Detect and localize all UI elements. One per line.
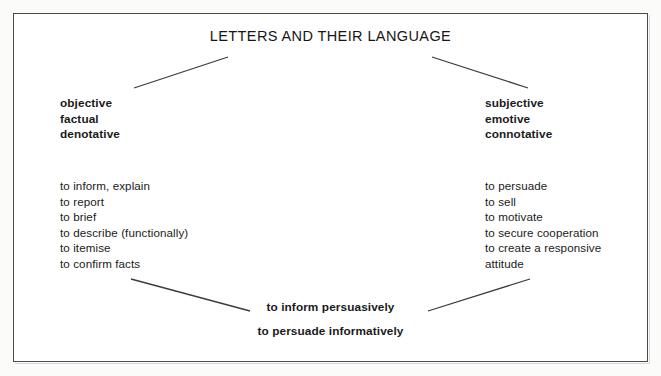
right-function-5: to create a responsive	[485, 240, 601, 256]
right-function-3: to motivate	[485, 209, 601, 225]
left-branch-functions: to inform, explain to report to brief to…	[60, 178, 188, 272]
left-function-6: to confirm facts	[60, 256, 188, 272]
left-trait-2: factual	[60, 112, 120, 128]
right-trait-2: emotive	[485, 112, 552, 128]
diagram-title: LETTERS AND THEIR LANGUAGE	[0, 28, 661, 44]
right-function-4: to secure cooperation	[485, 225, 601, 241]
right-branch-traits: subjective emotive connotative	[485, 96, 552, 143]
right-function-6: attitude	[485, 256, 601, 272]
right-trait-1: subjective	[485, 96, 552, 112]
left-function-5: to itemise	[60, 240, 188, 256]
left-function-2: to report	[60, 194, 188, 210]
right-function-1: to persuade	[485, 178, 601, 194]
left-branch-traits: objective factual denotative	[60, 96, 120, 143]
right-trait-3: connotative	[485, 127, 552, 143]
left-trait-3: denotative	[60, 127, 120, 143]
right-branch-functions: to persuade to sell to motivate to secur…	[485, 178, 601, 272]
left-function-4: to describe (functionally)	[60, 225, 188, 241]
left-function-3: to brief	[60, 209, 188, 225]
synthesis-line-1: to inform persuasively	[0, 300, 661, 314]
left-function-1: to inform, explain	[60, 178, 188, 194]
left-trait-1: objective	[60, 96, 120, 112]
right-function-2: to sell	[485, 194, 601, 210]
synthesis-line-2: to persuade informatively	[0, 324, 661, 338]
diagram-page: LETTERS AND THEIR LANGUAGE objective fac…	[0, 0, 661, 376]
